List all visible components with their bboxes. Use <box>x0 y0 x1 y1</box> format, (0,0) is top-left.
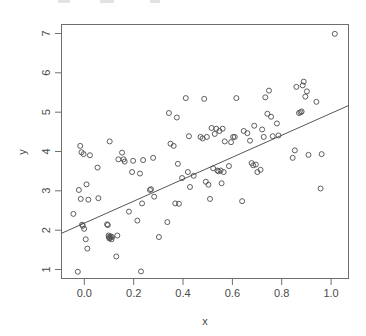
data-point <box>245 131 250 136</box>
data-point <box>269 114 274 119</box>
scatter-points-layer <box>71 31 337 274</box>
plot-canvas: 7 6 5 4 3 2 1 y 0.0 0.2 0.4 0.6 0.8 1.0 <box>0 0 366 336</box>
data-point <box>241 128 246 133</box>
data-point <box>85 246 90 251</box>
y-tick-label: 3 <box>40 188 52 194</box>
data-point <box>130 170 135 175</box>
data-point <box>82 226 87 231</box>
data-point <box>209 125 214 130</box>
x-axis-tick-labels: 0.0 0.2 0.4 0.6 0.8 1.0 <box>77 287 339 299</box>
data-point <box>266 88 271 93</box>
data-point <box>141 158 146 163</box>
data-point <box>135 218 140 223</box>
data-point <box>75 269 80 274</box>
x-tick-label: 1.0 <box>323 287 338 299</box>
scatter-plot-figure: 7 6 5 4 3 2 1 y 0.0 0.2 0.4 0.6 0.8 1.0 <box>0 0 366 336</box>
data-point <box>176 201 181 206</box>
y-axis-title: y <box>16 149 28 155</box>
x-axis-title: x <box>202 315 208 327</box>
x-tick-label: 0.2 <box>126 287 141 299</box>
data-point <box>226 164 231 169</box>
data-point <box>156 235 161 240</box>
data-point <box>318 186 323 191</box>
data-point <box>186 134 191 139</box>
data-point <box>219 181 224 186</box>
data-point <box>202 96 207 101</box>
y-tick-label: 6 <box>40 70 52 76</box>
data-point <box>229 140 234 145</box>
data-point <box>290 155 295 160</box>
data-point <box>248 138 253 143</box>
data-point <box>270 134 275 139</box>
data-point <box>222 139 227 144</box>
y-tick-label: 4 <box>40 148 52 154</box>
data-point <box>319 152 324 157</box>
data-point <box>187 184 192 189</box>
data-point <box>152 194 157 199</box>
data-point <box>306 152 311 157</box>
data-point <box>166 111 171 116</box>
data-point <box>137 171 142 176</box>
data-point <box>174 115 179 120</box>
x-axis-ticks <box>84 279 331 286</box>
data-point <box>87 153 92 158</box>
y-tick-label: 1 <box>40 266 52 272</box>
data-point <box>71 211 76 216</box>
y-axis-ticks <box>55 34 62 270</box>
data-point <box>252 123 257 128</box>
data-point <box>183 96 188 101</box>
plot-frame-box <box>62 25 349 279</box>
data-point <box>86 197 91 202</box>
x-tick-label: 0.4 <box>175 287 190 299</box>
data-point <box>151 155 156 160</box>
data-point <box>240 199 245 204</box>
data-point <box>95 165 100 170</box>
data-point <box>76 187 81 192</box>
data-point <box>131 158 136 163</box>
data-point <box>294 84 299 89</box>
regression-line <box>62 106 349 234</box>
data-point <box>274 121 279 126</box>
data-point <box>292 148 297 153</box>
x-tick-label: 0.0 <box>77 287 92 299</box>
y-tick-label: 2 <box>40 227 52 233</box>
data-point <box>114 254 119 259</box>
data-point <box>84 182 89 187</box>
data-point <box>314 99 319 104</box>
y-tick-label: 7 <box>40 30 52 36</box>
data-point <box>175 161 180 166</box>
data-point <box>212 131 217 136</box>
y-tick-label: 5 <box>40 109 52 115</box>
data-point <box>303 94 308 99</box>
data-point <box>83 237 88 242</box>
data-point <box>260 127 265 132</box>
data-point <box>165 220 170 225</box>
data-point <box>263 95 268 100</box>
data-point <box>115 233 120 238</box>
data-point <box>120 150 125 155</box>
data-point <box>304 89 309 94</box>
data-point <box>139 269 144 274</box>
x-tick-label: 0.6 <box>225 287 240 299</box>
data-point <box>78 143 83 148</box>
y-axis-tick-labels: 7 6 5 4 3 2 1 <box>40 30 52 272</box>
data-point <box>126 209 131 214</box>
data-point <box>261 134 266 139</box>
data-point <box>140 201 145 206</box>
data-point <box>116 157 121 162</box>
data-point <box>208 196 213 201</box>
data-point <box>78 196 83 201</box>
data-point <box>332 31 337 36</box>
data-point <box>96 196 101 201</box>
data-point <box>234 96 239 101</box>
data-point <box>185 170 190 175</box>
clipped-title-remnant <box>58 0 160 3</box>
data-point <box>107 139 112 144</box>
x-tick-label: 0.8 <box>274 287 289 299</box>
